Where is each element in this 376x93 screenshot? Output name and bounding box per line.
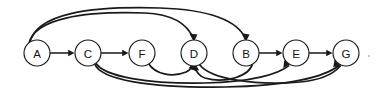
node-e-circle[interactable] — [283, 40, 309, 66]
node-c-circle[interactable] — [75, 40, 101, 66]
node-d-circle[interactable] — [181, 40, 207, 66]
edge-a-to-d — [29, 13, 198, 45]
node-f[interactable]: F — [129, 40, 155, 66]
edge-b-to-e-arrowhead — [276, 50, 282, 56]
edge-a-to-c — [51, 50, 75, 56]
node-f-circle[interactable] — [129, 40, 155, 66]
node-a[interactable]: A — [24, 40, 50, 66]
node-b-circle[interactable] — [233, 40, 259, 66]
edge-e-to-g-arrowhead — [326, 50, 332, 56]
node-d[interactable]: D — [181, 40, 207, 66]
edge-e-to-g — [310, 50, 333, 56]
edge-a-to-c-arrowhead — [68, 50, 74, 56]
node-c[interactable]: C — [75, 40, 101, 66]
bottom-arc-group — [95, 60, 343, 87]
edge-c-to-f — [102, 50, 129, 56]
graph-canvas: A C F D B E — [0, 0, 376, 93]
node-g-circle[interactable] — [333, 40, 359, 66]
node-a-circle[interactable] — [24, 40, 50, 66]
edge-a-to-d-path — [29, 13, 193, 45]
scan-artifact-speck — [368, 55, 370, 57]
edge-f-to-d-path — [149, 64, 193, 75]
node-e[interactable]: E — [283, 40, 309, 66]
node-g[interactable]: G — [333, 40, 359, 66]
directed-graph-figure: A C F D B E — [0, 0, 376, 93]
edge-c-to-f-arrowhead — [122, 50, 128, 56]
top-arc-group — [29, 8, 250, 45]
node-b[interactable]: B — [233, 40, 259, 66]
edge-b-to-e — [260, 50, 283, 56]
